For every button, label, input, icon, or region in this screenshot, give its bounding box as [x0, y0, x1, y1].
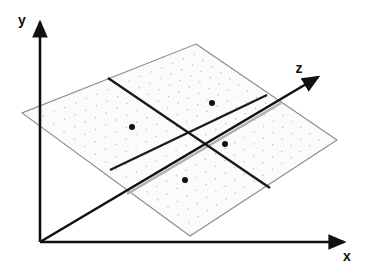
grid-dot — [177, 201, 178, 202]
grid-dot — [291, 121, 292, 122]
grid-dot — [116, 108, 117, 109]
grid-dot — [188, 222, 189, 223]
grid-dot — [115, 156, 116, 157]
grid-dot — [136, 122, 137, 123]
grid-dot — [256, 96, 257, 97]
coordinate-system-diagram: y x z — [0, 0, 368, 271]
grid-dot — [115, 169, 116, 170]
grid-dot — [243, 174, 244, 175]
grid-dot — [126, 176, 127, 177]
grid-dot — [236, 107, 237, 108]
point-top — [209, 100, 215, 106]
grid-dot — [207, 99, 208, 100]
grid-dot — [84, 146, 85, 147]
grid-dot — [115, 144, 116, 145]
grid-dot — [196, 203, 197, 204]
grid-dot — [215, 191, 216, 192]
grid-dot — [224, 148, 225, 149]
grid-dot — [94, 141, 95, 142]
grid-dot — [253, 131, 254, 132]
grid-dot — [244, 186, 245, 187]
grid-dot — [300, 151, 301, 152]
grid-dot — [135, 146, 136, 147]
grid-dot — [245, 113, 246, 114]
grid-dot — [281, 163, 282, 164]
grid-dot — [255, 108, 256, 109]
grid-dot — [74, 114, 75, 115]
grid-dot — [283, 115, 284, 116]
grid-dot — [253, 155, 254, 156]
grid-plane-surface — [22, 44, 337, 236]
grid-dot — [95, 129, 96, 130]
grid-dot — [272, 156, 273, 157]
grid-dot — [243, 161, 244, 162]
grid-dot — [235, 118, 236, 119]
grid-dot — [156, 136, 157, 137]
grid-dot — [228, 89, 229, 90]
grid-dot — [206, 197, 207, 198]
grid-dot — [281, 138, 282, 139]
grid-dot — [195, 139, 196, 140]
grid-dot — [234, 154, 235, 155]
grid-dot — [235, 192, 236, 193]
grid-dot — [138, 87, 139, 88]
grid-dot — [201, 71, 202, 72]
grid-dot — [207, 210, 208, 211]
grid-dot — [216, 105, 217, 106]
grid-dot — [166, 180, 167, 181]
grid-dot — [215, 129, 216, 130]
grid-dot — [125, 139, 126, 140]
grid-dot — [196, 116, 197, 117]
grid-dot — [169, 84, 170, 85]
grid-dot — [53, 123, 54, 124]
grid-dot — [189, 86, 190, 87]
grid-dot — [176, 114, 177, 115]
grid-dot — [224, 160, 225, 161]
grid-dot — [146, 117, 147, 118]
grid-dot — [168, 96, 169, 97]
grid-dot — [86, 98, 87, 99]
grid-dot — [309, 145, 310, 146]
grid-dot — [192, 64, 193, 65]
grid-dot — [193, 54, 194, 55]
grid-dot — [107, 89, 108, 90]
x-axis-label: x — [343, 248, 351, 264]
grid-dot — [167, 207, 168, 208]
grid-dot — [205, 134, 206, 135]
grid-dot — [84, 121, 85, 122]
grid-dot — [234, 179, 235, 180]
grid-dot — [206, 111, 207, 112]
grid-dot — [196, 189, 197, 190]
grid-dot — [208, 88, 209, 89]
grid-dot — [225, 198, 226, 199]
grid-dot — [53, 111, 54, 112]
grid-dot — [146, 129, 147, 130]
z-axis-label: z — [296, 60, 303, 76]
grid-dot — [64, 107, 65, 108]
grid-dot — [238, 84, 239, 85]
grid-dot — [211, 66, 212, 67]
grid-dot — [145, 141, 146, 142]
grid-dot — [215, 178, 216, 179]
grid-dot — [183, 58, 184, 59]
grid-dot — [105, 124, 106, 125]
grid-dot — [146, 191, 147, 192]
grid-dot — [272, 144, 273, 145]
grid-dot — [262, 150, 263, 151]
grid-dot — [186, 121, 187, 122]
grid-dot — [126, 127, 127, 128]
grid-dot — [166, 131, 167, 132]
grid-dot — [243, 149, 244, 150]
grid-dot — [106, 101, 107, 102]
grid-dot — [253, 168, 254, 169]
grid-dot — [263, 138, 264, 139]
grid-dot — [187, 208, 188, 209]
grid-dot — [105, 149, 106, 150]
grid-dot — [176, 188, 177, 189]
grid-dot — [281, 150, 282, 151]
grid-dot — [190, 75, 191, 76]
grid-dot — [161, 67, 162, 68]
grid-dot — [181, 69, 182, 70]
grid-dot — [227, 100, 228, 101]
grid-dot — [195, 177, 196, 178]
